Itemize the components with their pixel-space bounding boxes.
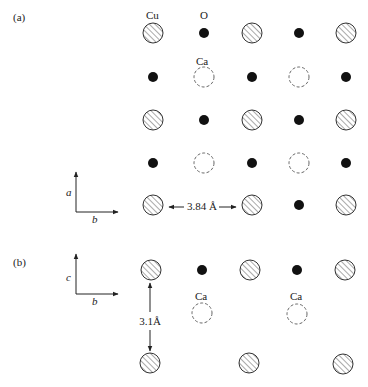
- axis-b-label: b: [92, 213, 98, 225]
- o-atom-icon: [197, 265, 207, 275]
- cu-atom-icon: [141, 260, 161, 280]
- ca-atom-icon: [289, 67, 309, 87]
- o-column-label: O: [200, 9, 208, 21]
- o-atom-icon: [247, 158, 257, 168]
- axis-a-label: a: [66, 186, 72, 198]
- ca-atom-icon: [287, 304, 307, 324]
- distance-indicator-bc: 3.1Å: [139, 283, 161, 351]
- axis-c-label: c: [66, 271, 71, 283]
- cu-atom-icon: [242, 23, 262, 43]
- ca-atom-icon: [194, 153, 214, 173]
- ca-label: Ca: [196, 55, 208, 67]
- cu-column-label: Cu: [146, 9, 159, 21]
- panel-b: (b) Ca Ca c b 3.1Å: [13, 254, 355, 374]
- o-atom-icon: [148, 158, 158, 168]
- axis-b-label-2: b: [92, 295, 98, 307]
- o-atom-icon: [199, 115, 209, 125]
- cu-atom-icon: [242, 110, 262, 130]
- o-atom-icon: [292, 265, 302, 275]
- axes-ab: a b: [66, 172, 118, 225]
- panel-b-label: (b): [13, 256, 26, 269]
- o-atom-icon: [341, 72, 351, 82]
- cu-atom-icon: [335, 260, 355, 280]
- atom-lattice-ab: [143, 23, 356, 215]
- cu-atom-icon: [242, 195, 262, 215]
- distance-label-3-1: 3.1Å: [139, 315, 161, 327]
- cu-atom-icon: [240, 260, 260, 280]
- ca-atom-icon: [289, 153, 309, 173]
- o-atom-icon: [294, 200, 304, 210]
- o-atom-icon: [199, 28, 209, 38]
- cu-atom-icon: [140, 353, 160, 373]
- distance-label-3-84: 3.84 Å: [187, 200, 217, 212]
- distance-indicator-ab: 3.84 Å: [169, 200, 236, 212]
- axes-bc: c b: [66, 254, 118, 307]
- panel-a-label: (a): [13, 11, 26, 24]
- cu-atom-icon: [333, 354, 353, 374]
- o-atom-icon: [247, 72, 257, 82]
- ca-label-b-2: Ca: [290, 290, 302, 302]
- o-atom-icon: [294, 28, 304, 38]
- ca-atom-icon: [194, 67, 214, 87]
- atom-lattice-bc: [140, 260, 355, 374]
- crystal-structure-diagram: (a) Cu O Ca a b 3.84 Å (b) Ca Ca c b: [0, 0, 368, 387]
- cu-atom-icon: [336, 23, 356, 43]
- o-atom-icon: [294, 115, 304, 125]
- cu-atom-icon: [336, 195, 356, 215]
- ca-atom-icon: [192, 303, 212, 323]
- panel-a: (a) Cu O Ca a b 3.84 Å: [13, 9, 356, 225]
- cu-atom-icon: [143, 110, 163, 130]
- ca-label-b-1: Ca: [195, 290, 207, 302]
- cu-atom-icon: [239, 353, 259, 373]
- cu-atom-icon: [336, 110, 356, 130]
- cu-atom-icon: [143, 195, 163, 215]
- cu-atom-icon: [143, 23, 163, 43]
- o-atom-icon: [148, 72, 158, 82]
- o-atom-icon: [341, 158, 351, 168]
